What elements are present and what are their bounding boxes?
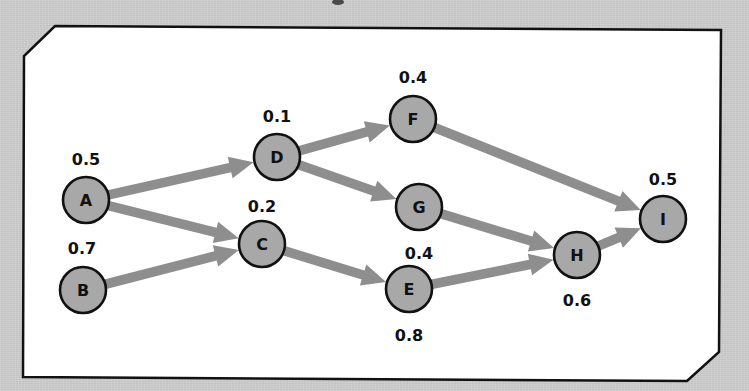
node-value-label: 0.4 <box>405 244 433 263</box>
diagram-canvas: A0.5B0.7C0.2D0.1E0.8F0.4G0.4H0.6I0.5 <box>0 0 749 391</box>
node-label: H <box>570 246 583 265</box>
node-label: B <box>77 281 89 300</box>
node-value-label: 0.4 <box>399 68 427 87</box>
node-value-label: 0.2 <box>248 197 276 216</box>
node-value-label: 0.7 <box>68 239 96 258</box>
node-value-label: 0.1 <box>263 107 291 126</box>
node-label: E <box>404 280 415 299</box>
node-label: C <box>256 235 268 254</box>
node-label: F <box>408 110 419 129</box>
node-label: I <box>660 210 666 229</box>
node-label: D <box>270 148 283 167</box>
node-value-label: 0.6 <box>563 291 591 310</box>
network-diagram: A0.5B0.7C0.2D0.1E0.8F0.4G0.4H0.6I0.5 <box>0 0 749 391</box>
node-label: G <box>412 198 425 217</box>
node-value-label: 0.8 <box>395 326 423 345</box>
node-value-label: 0.5 <box>649 170 677 189</box>
node-value-label: 0.5 <box>72 150 100 169</box>
cropped-title-fragment <box>332 0 344 5</box>
node-label: A <box>80 191 93 210</box>
